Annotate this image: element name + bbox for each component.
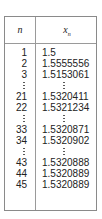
table-row: 331.5320871: [5, 124, 96, 135]
header-x-subscript: n: [68, 31, 71, 37]
cell-x: 1.5320888: [42, 157, 89, 168]
cell-n: 21: [5, 91, 27, 102]
cell-x: 1.5320889: [42, 179, 89, 190]
vertical-ellipsis-icon: [5, 113, 25, 124]
vertical-ellipsis-icon: [63, 80, 65, 91]
table-row: 221.5321234: [5, 102, 96, 113]
vertical-ellipsis-icon: [5, 146, 25, 157]
cell-n: 45: [5, 179, 27, 190]
cell-n: 34: [5, 135, 27, 146]
cell-x: 1.5320889: [42, 168, 89, 179]
cell-x: 1.5320871: [42, 124, 89, 135]
cell-n: 2: [5, 58, 27, 69]
table-row: 341.5320902: [5, 135, 96, 146]
cell-x: 1.5320902: [42, 135, 89, 146]
table-row: 31.5153061: [5, 69, 96, 80]
cell-n: 1: [5, 47, 27, 58]
ellipsis-row: [5, 113, 96, 124]
cell-x: 1.5555556: [42, 58, 89, 69]
cell-n: 43: [5, 157, 27, 168]
cell-n: 33: [5, 124, 27, 135]
table-row: 431.5320888: [5, 157, 96, 168]
iteration-table: n xn 11.5 21.5555556 31.5153061 211.5320…: [4, 16, 97, 211]
cell-n: 22: [5, 102, 27, 113]
table-row: 21.5555556: [5, 58, 96, 69]
header-n-label: n: [18, 24, 23, 35]
header-xn: xn: [36, 24, 98, 37]
cell-n: 3: [5, 69, 27, 80]
table-body: 11.5 21.5555556 31.5153061 211.5320411 2…: [5, 47, 96, 190]
cell-x: 1.5320411: [42, 91, 89, 102]
cell-x: 1.5: [42, 47, 56, 58]
cell-x: 1.5153061: [42, 69, 89, 80]
table-row: 11.5: [5, 47, 96, 58]
table-row: 211.5320411: [5, 91, 96, 102]
cell-x: 1.5321234: [42, 102, 89, 113]
table-row: 441.5320889: [5, 168, 96, 179]
vertical-ellipsis-icon: [63, 146, 65, 157]
vertical-ellipsis-icon: [63, 113, 65, 124]
ellipsis-row: [5, 80, 96, 91]
vertical-ellipsis-icon: [5, 80, 25, 91]
table-row: 451.5320889: [5, 179, 96, 190]
header-n: n: [5, 24, 35, 35]
cell-n: 44: [5, 168, 27, 179]
header-divider: [5, 43, 96, 44]
ellipsis-row: [5, 146, 96, 157]
